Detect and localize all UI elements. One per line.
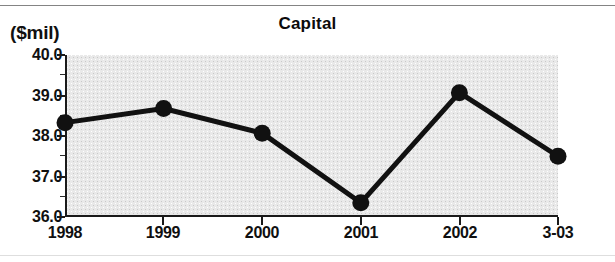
data-point-2000 — [254, 125, 271, 142]
data-series-layer — [0, 0, 615, 262]
capital-series-markers — [57, 84, 567, 211]
data-point-1998 — [57, 114, 74, 131]
data-point-2001 — [352, 194, 369, 211]
page-rule-bottom — [0, 255, 615, 256]
data-point-3-03 — [550, 148, 567, 165]
capital-series-line — [65, 93, 558, 203]
capital-line-chart-figure: ($mil) Capital 36.0 37.0 38.0 39.0 40.0 … — [0, 0, 615, 262]
data-point-2002 — [451, 84, 468, 101]
data-point-1999 — [155, 100, 172, 117]
